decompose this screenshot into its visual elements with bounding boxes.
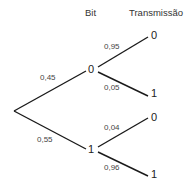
prob-0-0: 0,95 <box>104 43 120 51</box>
header-transmission: Transmissão <box>129 8 183 18</box>
prob-1-0: 0,04 <box>104 124 120 132</box>
prob-root-1: 0,55 <box>37 136 53 144</box>
prob-1-1: 0,96 <box>104 164 120 172</box>
leaf-1-1: 1 <box>151 169 157 180</box>
tree-edges <box>0 0 191 188</box>
leaf-0-0: 0 <box>151 30 157 41</box>
leaf-1-0: 0 <box>151 112 157 123</box>
header-bit: Bit <box>85 8 96 18</box>
prob-root-0: 0,45 <box>40 74 56 82</box>
node-bit-0: 0 <box>88 64 94 75</box>
leaf-0-1: 1 <box>151 88 157 99</box>
prob-0-1: 0,05 <box>104 84 120 92</box>
node-bit-1: 1 <box>88 144 94 155</box>
